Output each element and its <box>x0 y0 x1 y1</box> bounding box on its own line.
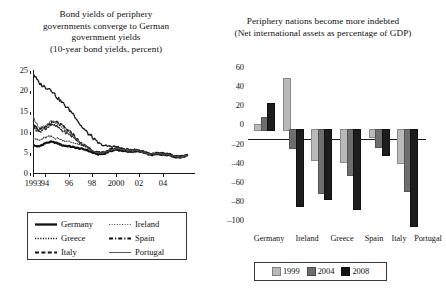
bar-greece-2008[interactable] <box>324 129 332 200</box>
legend-swatch-1999 <box>272 267 281 276</box>
bar-ireland-2008[interactable] <box>296 129 304 207</box>
legend-label-portugal: Portugal <box>135 247 164 257</box>
left-xtick-label-2000: 2000 <box>104 179 128 188</box>
left-ytick-15: 15 <box>6 107 28 116</box>
legend-sample-ireland <box>109 220 131 229</box>
left-xtick-mark-1994 <box>45 174 46 177</box>
left-ytick-mark-10 <box>30 132 31 135</box>
left-xtick-mark-2004 <box>163 174 164 177</box>
legend-label-greece: Greece <box>61 233 85 243</box>
bar-group-greece <box>311 68 340 230</box>
right-ytick-n40: –40 <box>212 159 244 168</box>
left-title-line-2: governments converge to German <box>8 21 204 33</box>
legend-item-1999[interactable]: 1999 <box>272 267 300 276</box>
right-chart-title: Periphery nations become more indebted (… <box>212 0 434 39</box>
right-ytick-40: 40 <box>212 82 244 91</box>
bar-spain-2008[interactable] <box>353 129 361 210</box>
left-xtick-label-96: 96 <box>61 179 77 188</box>
bar-group-germany <box>254 68 283 230</box>
legend-label-2004: 2004 <box>318 267 335 276</box>
bar-group-italy <box>369 68 398 230</box>
bar-group-portugal <box>397 68 426 230</box>
left-xtick-mark-1996 <box>69 174 70 177</box>
legend-item-spain[interactable]: Spain <box>109 232 183 244</box>
legend-swatch-2004 <box>307 267 316 276</box>
series-line-greece <box>33 74 187 157</box>
left-ytick-mark-15 <box>30 112 31 115</box>
left-ytick-mark-5 <box>30 153 31 156</box>
legend-item-2004[interactable]: 2004 <box>307 267 335 276</box>
left-xtick-label-94: 94 <box>37 179 53 188</box>
category-label-greece: Greece <box>324 234 360 243</box>
right-ytick-n20: –20 <box>212 140 244 149</box>
category-label-portugal: Portugal <box>408 234 446 243</box>
bar-portugal-2008[interactable] <box>410 129 418 227</box>
left-xtick-mark-2002 <box>139 174 140 177</box>
legend-label-2008: 2008 <box>352 267 369 276</box>
legend-swatch-2008 <box>341 267 350 276</box>
legend-sample-spain <box>109 234 131 243</box>
legend-item-greece[interactable]: Greece <box>35 232 109 244</box>
left-xtick-mark-1998 <box>92 174 93 177</box>
left-title-subtitle: (10-year bond yields, percent) <box>8 44 204 56</box>
legend-label-germany: Germany <box>61 219 93 229</box>
bond-yields-chart-panel: Bond yields of periphery governments con… <box>0 0 212 297</box>
bar-ireland-1999[interactable] <box>283 78 291 131</box>
left-xtick-label-98: 98 <box>84 179 100 188</box>
legend-item-2008[interactable]: 2008 <box>341 267 369 276</box>
left-ytick-5: 5 <box>6 148 28 157</box>
bar-group-ireland <box>283 68 312 230</box>
right-ytick-20: 20 <box>212 101 244 110</box>
left-ytick-mark-25 <box>30 71 31 74</box>
bar-germany-2008[interactable] <box>267 103 275 130</box>
left-chart-series-svg <box>33 70 195 174</box>
left-ytick-20: 20 <box>6 86 28 95</box>
left-title-line-3: government yields <box>8 32 204 44</box>
legend-label-spain: Spain <box>135 233 155 243</box>
legend-sample-germany <box>35 220 57 229</box>
left-ytick-mark-20 <box>30 91 31 94</box>
right-chart-legend: 1999 2004 2008 <box>254 262 387 281</box>
left-xtick-mark-2000 <box>116 174 117 177</box>
category-label-germany: Germany <box>248 234 290 243</box>
legend-sample-italy <box>35 248 57 257</box>
right-ytick-60: 60 <box>212 63 244 72</box>
left-chart-legend: Germany Ireland Greece Spain <box>27 212 187 260</box>
legend-item-ireland[interactable]: Ireland <box>109 218 183 230</box>
right-ytick-n80: –80 <box>212 197 244 206</box>
category-label-ireland: Ireland <box>289 234 325 243</box>
right-title-subtitle: (Net international assets as percentage … <box>218 28 428 40</box>
legend-label-1999: 1999 <box>283 267 300 276</box>
legend-sample-greece <box>35 234 57 243</box>
right-title-line-1: Periphery nations become more indebted <box>218 16 428 28</box>
left-ytick-10: 10 <box>6 128 28 137</box>
legend-label-italy: Italy <box>61 247 77 257</box>
right-ytick-n60: –60 <box>212 178 244 187</box>
left-title-line-1: Bond yields of periphery <box>8 9 204 21</box>
left-ytick-0: 0 <box>6 169 28 178</box>
left-ytick-mark-0 <box>30 173 31 176</box>
left-xtick-label-02: 02 <box>131 179 147 188</box>
legend-sample-portugal <box>109 248 131 257</box>
bar-group-spain <box>340 68 369 230</box>
left-xtick-label-04: 04 <box>155 179 171 188</box>
legend-label-ireland: Ireland <box>135 219 159 229</box>
legend-item-italy[interactable]: Italy <box>35 246 109 258</box>
left-chart-title: Bond yields of periphery governments con… <box>0 0 212 55</box>
net-international-assets-chart-panel: Periphery nations become more indebted (… <box>212 0 434 297</box>
left-xtick-mark-1993 <box>33 174 34 177</box>
right-ytick-0: 0 <box>212 120 244 129</box>
left-ytick-25: 25 <box>6 66 28 75</box>
legend-item-germany[interactable]: Germany <box>35 218 109 230</box>
right-ytick-n100: –100 <box>209 216 244 225</box>
bar-italy-2008[interactable] <box>382 129 390 156</box>
right-chart-bars <box>251 68 423 230</box>
legend-item-portugal[interactable]: Portugal <box>109 246 183 258</box>
